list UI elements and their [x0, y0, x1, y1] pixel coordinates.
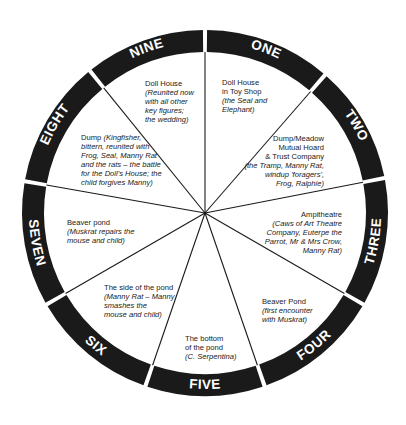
segment-four-detail-1: (first encounter — [262, 306, 342, 315]
segment-four-detail-2: with Muskrat) — [262, 315, 342, 324]
segment-five-detail-1: (C. Serpentina) — [185, 352, 260, 361]
stage-wheel: ONETWOTHREEFOURFIVESIXSEVENEIGHTNINE — [0, 0, 406, 425]
segment-five-text: The bottom of the pond (C. Serpentina) — [185, 334, 260, 361]
segment-seven-detail-2: mouse and child) — [67, 236, 157, 245]
segment-eight-detail-1: (Kingfisher, — [103, 133, 141, 142]
segment-three-text: Ampitheatre (Caws of Art Theatre Company… — [248, 210, 342, 255]
segment-six-title-1: The side of the pond — [104, 283, 194, 292]
segment-one-text: Doll House in Toy Shop (the Seal and Ele… — [222, 78, 302, 114]
segment-divider — [46, 185, 205, 213]
segment-three-detail-1: (Caws of Art Theatre — [248, 219, 342, 228]
segment-eight-detail-5: for the Doll's House; the — [81, 169, 181, 178]
segment-two-detail-3: Frog, Ralphie) — [232, 179, 324, 188]
segment-three-detail-4: Manny Rat) — [248, 246, 342, 255]
segment-eight-line-1: Dump (Kingfisher, — [81, 133, 181, 142]
segment-two-detail-2: windup 'foragers', — [232, 170, 324, 179]
segment-six-text: The side of the pond (Manny Rat – Manny … — [104, 283, 194, 319]
segment-four-title-1: Beaver Pond — [262, 297, 342, 306]
segment-three-detail-3: Parrot, Mr & Mrs Crow, — [248, 237, 342, 246]
segment-two-title-2: Mutual Hoard — [232, 143, 324, 152]
segment-five-title-1: The bottom — [185, 334, 260, 343]
segment-two-title-3: & Trust Company — [232, 152, 324, 161]
segment-nine-title-1: Doll House — [145, 79, 220, 88]
segment-nine-detail-1: (Reunited now — [145, 88, 220, 97]
segment-eight-text: Dump (Kingfisher, bittern, reunited with… — [81, 133, 181, 187]
segment-seven-detail-1: (Muskrat repairs the — [67, 227, 157, 236]
segment-six-detail-2: smashes the — [104, 301, 194, 310]
segment-two-title-1: Dump/Meadow — [232, 134, 324, 143]
segment-eight-detail-4: and the rats – the battle — [81, 160, 181, 169]
segment-four-text: Beaver Pond (first encounter with Muskra… — [262, 297, 342, 324]
segment-one-detail-2: Elephant) — [222, 105, 302, 114]
segment-six-detail-1: (Manny Rat – Manny — [104, 292, 194, 301]
segment-nine-text: Doll House (Reunited now with all other … — [145, 79, 220, 124]
segment-two-detail-1: (the Tramp, Manny Rat, — [232, 161, 324, 170]
segment-nine-detail-3: key figures; — [145, 106, 220, 115]
segment-eight-detail-3: Frog, Seal, Manny Rat — [81, 151, 181, 160]
segment-three-detail-2: Company, Euterpe the — [248, 228, 342, 237]
segment-six-detail-3: mouse and child) — [104, 310, 194, 319]
segment-one-title-2: in Toy Shop — [222, 87, 302, 96]
segment-one-detail-1: (the Seal and — [222, 96, 302, 105]
segment-eight-detail-6: child forgives Manny) — [81, 178, 181, 187]
segment-five-title-2: of the pond — [185, 343, 260, 352]
segment-seven-text: Beaver pond (Muskrat repairs the mouse a… — [67, 218, 157, 245]
segment-seven-title-1: Beaver pond — [67, 218, 157, 227]
segment-one-title-1: Doll House — [222, 78, 302, 87]
segment-three-title-1: Ampitheatre — [248, 210, 342, 219]
segment-eight-detail-2: bittern, reunited with — [81, 142, 181, 151]
segment-nine-detail-2: with all other — [145, 97, 220, 106]
segment-nine-detail-4: the wedding) — [145, 115, 220, 124]
ring-label-five: FIVE — [189, 376, 221, 392]
segment-two-text: Dump/Meadow Mutual Hoard & Trust Company… — [232, 134, 324, 188]
segment-eight-title-1: Dump — [81, 133, 101, 142]
